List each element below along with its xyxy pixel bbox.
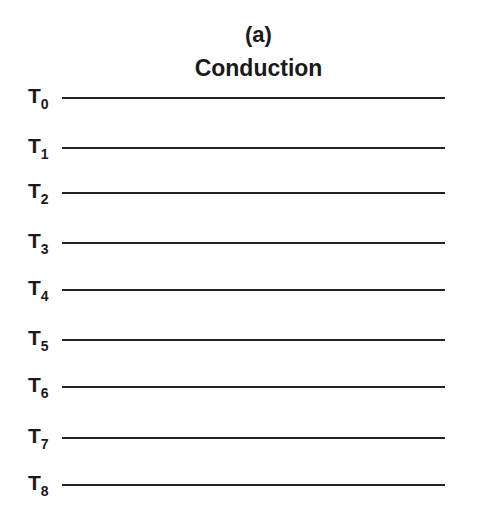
level-row-t6: T6 xyxy=(0,374,480,404)
level-row-t4: T4 xyxy=(0,277,480,307)
level-label: T0 xyxy=(28,85,49,107)
level-label: T2 xyxy=(28,180,49,202)
level-label: T6 xyxy=(28,374,49,396)
level-line xyxy=(62,484,445,486)
level-label: T3 xyxy=(28,230,49,252)
diagram-title: Conduction xyxy=(0,54,480,82)
level-line xyxy=(62,97,445,99)
level-label: T1 xyxy=(28,135,49,157)
level-label: T7 xyxy=(28,425,49,447)
level-row-t7: T7 xyxy=(0,425,480,455)
level-row-t1: T1 xyxy=(0,135,480,165)
level-label: T5 xyxy=(28,327,49,349)
level-row-t0: T0 xyxy=(0,85,480,115)
panel-label: (a) xyxy=(0,22,480,48)
level-row-t5: T5 xyxy=(0,327,480,357)
level-row-t3: T3 xyxy=(0,230,480,260)
level-line xyxy=(62,242,445,244)
level-row-t2: T2 xyxy=(0,180,480,210)
level-line xyxy=(62,192,445,194)
level-row-t8: T8 xyxy=(0,472,480,502)
level-line xyxy=(62,386,445,388)
level-line xyxy=(62,147,445,149)
level-line xyxy=(62,289,445,291)
level-line xyxy=(62,437,445,439)
level-line xyxy=(62,339,445,341)
level-label: T8 xyxy=(28,472,49,494)
level-label: T4 xyxy=(28,277,49,299)
